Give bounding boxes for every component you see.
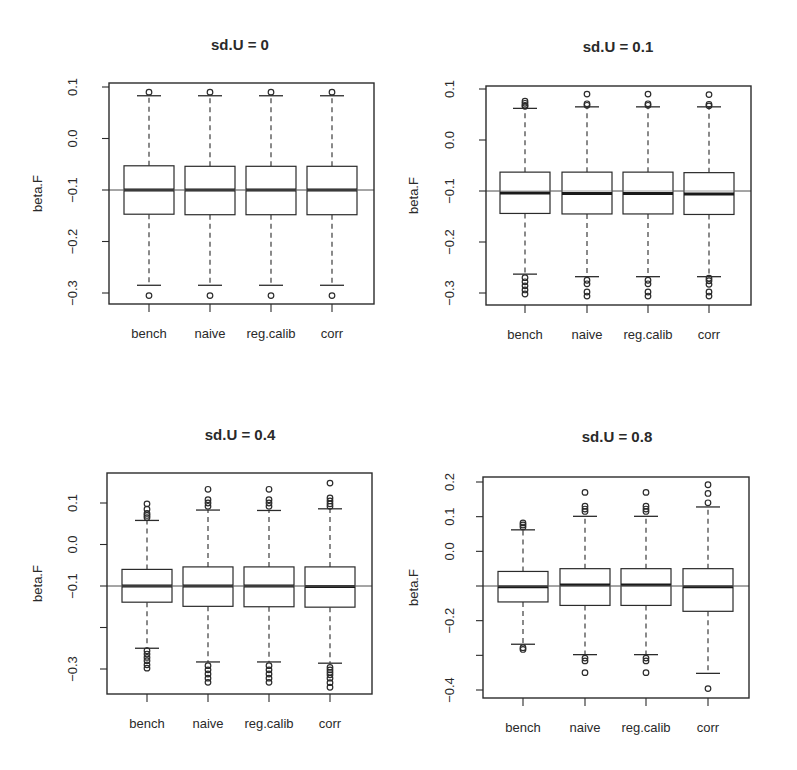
x-tick-label: bench bbox=[507, 327, 542, 342]
outlier-point bbox=[584, 91, 590, 97]
outlier-point bbox=[329, 89, 335, 95]
y-tick-label: 0.2 bbox=[442, 473, 457, 491]
boxplot-grid-svg: sd.U = 0beta.F0.10.0−0.1−0.2−0.3benchnai… bbox=[0, 0, 797, 770]
box-corr bbox=[683, 482, 733, 691]
outlier-point bbox=[645, 281, 651, 287]
outlier-point bbox=[146, 89, 152, 95]
outlier-point bbox=[645, 91, 651, 97]
x-tick-label: corr bbox=[697, 720, 720, 735]
y-tick-label: −0.1 bbox=[65, 573, 80, 599]
panel-sd-u-0.1: sd.U = 0.1beta.F0.10.0−0.1−0.2−0.3benchn… bbox=[406, 38, 751, 342]
outlier-point bbox=[705, 482, 711, 488]
y-tick-label: −0.3 bbox=[65, 656, 80, 682]
x-tick-label: bench bbox=[505, 720, 540, 735]
panel-title: sd.U = 0.8 bbox=[582, 428, 652, 445]
y-tick-label: 0.0 bbox=[65, 129, 80, 147]
outlier-point bbox=[705, 500, 711, 506]
x-tick-label: reg.calib bbox=[244, 716, 293, 731]
y-tick-label: −0.1 bbox=[65, 177, 80, 203]
x-tick-label: naive bbox=[194, 326, 225, 341]
outlier-point bbox=[706, 282, 712, 288]
box-bench bbox=[124, 89, 174, 298]
y-tick-label: 0.0 bbox=[442, 131, 457, 149]
outlier-point bbox=[207, 89, 213, 95]
y-axis-label: beta.F bbox=[30, 175, 45, 212]
outlier-point bbox=[584, 281, 590, 287]
outlier-point bbox=[643, 670, 649, 676]
iqr-box bbox=[683, 569, 733, 612]
box-reg.calib bbox=[621, 490, 671, 676]
x-tick-label: naive bbox=[192, 716, 223, 731]
box-reg.calib bbox=[246, 89, 296, 298]
x-axis: benchnaivereg.calibcorr bbox=[505, 698, 720, 735]
y-tick-label: 0.1 bbox=[65, 494, 80, 512]
outlier-point bbox=[144, 506, 150, 512]
outlier-point bbox=[706, 92, 712, 98]
y-tick-label: −0.2 bbox=[442, 608, 457, 634]
iqr-box bbox=[560, 569, 610, 606]
panel-title: sd.U = 0.4 bbox=[205, 426, 276, 443]
y-axis: 0.10.0−0.1−0.2−0.3 bbox=[65, 78, 109, 306]
y-tick-label: 0.1 bbox=[442, 508, 457, 526]
y-tick-label: −0.3 bbox=[442, 280, 457, 306]
x-axis: benchnaivereg.calibcorr bbox=[131, 304, 344, 341]
x-tick-label: reg.calib bbox=[621, 720, 670, 735]
x-axis: benchnaivereg.calibcorr bbox=[507, 305, 721, 342]
box-bench bbox=[500, 98, 550, 296]
outlier-point bbox=[705, 686, 711, 692]
x-tick-label: naive bbox=[569, 720, 600, 735]
y-axis-label: beta.F bbox=[406, 177, 421, 214]
x-tick-label: bench bbox=[129, 716, 164, 731]
y-tick-label: −0.2 bbox=[442, 229, 457, 255]
outlier-point bbox=[268, 293, 274, 299]
x-axis: benchnaivereg.calibcorr bbox=[129, 694, 342, 731]
x-tick-label: corr bbox=[319, 716, 342, 731]
outlier-point bbox=[266, 487, 272, 493]
x-tick-label: reg.calib bbox=[246, 326, 295, 341]
iqr-box bbox=[621, 569, 671, 606]
y-axis-label: beta.F bbox=[30, 565, 45, 602]
outlier-point bbox=[522, 291, 528, 297]
panel-title: sd.U = 0.1 bbox=[583, 38, 653, 55]
outlier-point bbox=[146, 293, 152, 299]
outlier-point bbox=[205, 487, 211, 493]
outlier-point bbox=[584, 293, 590, 299]
y-axis-label: beta.F bbox=[406, 569, 421, 606]
box-corr bbox=[307, 89, 357, 298]
panel-sd-u-0.4: sd.U = 0.4beta.F0.10.0−0.1−0.3benchnaive… bbox=[30, 426, 372, 731]
outlier-point bbox=[329, 293, 335, 299]
outlier-point bbox=[327, 480, 333, 486]
y-tick-label: 0.0 bbox=[65, 535, 80, 553]
y-tick-label: 0.0 bbox=[442, 542, 457, 560]
outlier-point bbox=[266, 679, 272, 685]
outlier-point bbox=[645, 293, 651, 299]
y-axis: 0.20.10.0−0.2−0.4 bbox=[442, 473, 483, 703]
outlier-point bbox=[582, 670, 588, 676]
x-tick-label: corr bbox=[321, 326, 344, 341]
panel-sd-u-0: sd.U = 0beta.F0.10.0−0.1−0.2−0.3benchnai… bbox=[30, 36, 374, 341]
panel-sd-u-0.8: sd.U = 0.8beta.F0.20.10.0−0.2−0.4benchna… bbox=[406, 428, 749, 735]
y-tick-label: −0.2 bbox=[65, 229, 80, 255]
x-tick-label: reg.calib bbox=[623, 327, 672, 342]
y-tick-label: −0.1 bbox=[442, 178, 457, 204]
box-corr bbox=[305, 480, 355, 690]
outlier-point bbox=[706, 293, 712, 299]
y-axis: 0.10.0−0.1−0.3 bbox=[65, 494, 107, 682]
box-naive bbox=[560, 490, 610, 676]
outlier-point bbox=[144, 501, 150, 507]
y-tick-label: −0.3 bbox=[65, 280, 80, 306]
outlier-point bbox=[205, 679, 211, 685]
x-tick-label: corr bbox=[698, 327, 721, 342]
box-reg.calib bbox=[623, 91, 673, 299]
boxplot-figure: sd.U = 0beta.F0.10.0−0.1−0.2−0.3benchnai… bbox=[0, 0, 797, 770]
y-tick-label: −0.4 bbox=[442, 677, 457, 703]
y-tick-label: 0.1 bbox=[442, 80, 457, 98]
outlier-point bbox=[207, 293, 213, 299]
outlier-point bbox=[268, 89, 274, 95]
box-naive bbox=[562, 91, 612, 299]
x-tick-label: bench bbox=[131, 326, 166, 341]
panel-title: sd.U = 0 bbox=[211, 36, 269, 53]
outlier-point bbox=[643, 490, 649, 496]
box-corr bbox=[684, 92, 734, 299]
y-axis: 0.10.0−0.1−0.2−0.3 bbox=[442, 80, 486, 306]
